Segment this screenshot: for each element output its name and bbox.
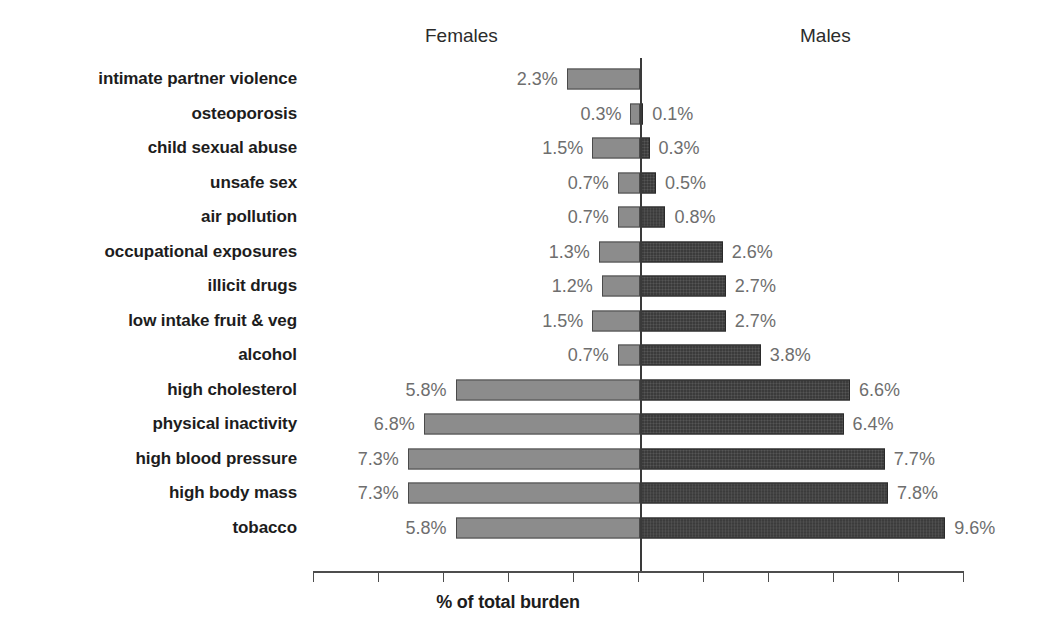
- axis-tick: [573, 571, 574, 582]
- bar-male: [640, 276, 726, 297]
- value-label-female: 6.8%: [374, 414, 415, 435]
- axis-tick: [313, 571, 314, 582]
- bar-rows: intimate partner violence2.3%osteoporosi…: [0, 62, 1038, 545]
- axis-tick: [703, 571, 704, 582]
- category-label: alcohol: [238, 345, 297, 365]
- axis-tick: [443, 571, 444, 582]
- chart-row: high cholesterol5.8%6.6%: [0, 373, 1038, 408]
- chart-row: alcohol0.7%3.8%: [0, 338, 1038, 373]
- axis-tick: [638, 571, 639, 582]
- category-label: unsafe sex: [210, 173, 297, 193]
- axis-tick: [378, 571, 379, 582]
- chart-row: high blood pressure7.3%7.7%: [0, 442, 1038, 477]
- category-label: high cholesterol: [167, 380, 297, 400]
- chart-row: low intake fruit & veg1.5%2.7%: [0, 304, 1038, 339]
- value-label-female: 5.8%: [406, 379, 447, 400]
- value-label-male: 7.8%: [897, 483, 938, 504]
- chart-row: unsafe sex0.7%0.5%: [0, 166, 1038, 201]
- bar-male: [640, 172, 656, 193]
- bar-male: [640, 517, 945, 538]
- value-label-male: 2.7%: [735, 276, 776, 297]
- value-label-female: 7.3%: [358, 483, 399, 504]
- chart-row: air pollution0.7%0.8%: [0, 200, 1038, 235]
- x-axis-title-text: % of total burden: [436, 592, 580, 613]
- value-label-male: 7.7%: [894, 448, 935, 469]
- bar-male: [640, 414, 844, 435]
- axis-tick: [898, 571, 899, 582]
- category-label: physical inactivity: [152, 414, 297, 434]
- bar-female: [592, 310, 640, 331]
- zero-axis-line: [640, 58, 642, 572]
- value-label-female: 1.2%: [552, 276, 593, 297]
- chart-row: osteoporosis0.3%0.1%: [0, 97, 1038, 132]
- bar-male: [640, 310, 726, 331]
- value-label-female: 1.3%: [549, 241, 590, 262]
- category-label: low intake fruit & veg: [128, 311, 297, 331]
- axis-tick: [963, 571, 964, 582]
- bar-male: [640, 483, 888, 504]
- category-label: high body mass: [169, 483, 297, 503]
- value-label-male: 2.7%: [735, 310, 776, 331]
- value-label-female: 2.3%: [517, 69, 558, 90]
- category-label: intimate partner violence: [98, 69, 297, 89]
- bar-female: [592, 138, 640, 159]
- value-label-female: 7.3%: [358, 448, 399, 469]
- chart-row: illicit drugs1.2%2.7%: [0, 269, 1038, 304]
- bar-female: [567, 69, 640, 90]
- bar-female: [618, 345, 640, 366]
- chart-row: intimate partner violence2.3%: [0, 62, 1038, 97]
- value-label-male: 6.4%: [853, 414, 894, 435]
- bar-female: [630, 103, 640, 124]
- value-label-male: 6.6%: [859, 379, 900, 400]
- bar-female: [408, 483, 640, 504]
- value-label-female: 0.7%: [568, 207, 609, 228]
- bar-female: [599, 241, 640, 262]
- bar-female: [424, 414, 640, 435]
- value-label-male: 0.1%: [652, 103, 693, 124]
- chart-canvas: Females Males intimate partner violence2…: [0, 0, 1038, 632]
- axis-tick: [768, 571, 769, 582]
- bar-female: [618, 172, 640, 193]
- bar-female: [602, 276, 640, 297]
- bar-male: [640, 241, 723, 262]
- value-label-female: 0.7%: [568, 345, 609, 366]
- category-label: child sexual abuse: [148, 138, 297, 158]
- category-label: osteoporosis: [191, 104, 297, 124]
- category-label: air pollution: [201, 207, 297, 227]
- value-label-female: 0.7%: [568, 172, 609, 193]
- chart-row: child sexual abuse1.5%0.3%: [0, 131, 1038, 166]
- value-label-male: 9.6%: [954, 517, 995, 538]
- category-label: high blood pressure: [135, 449, 297, 469]
- bar-male: [640, 207, 665, 228]
- value-label-male: 0.5%: [665, 172, 706, 193]
- chart-row: occupational exposures1.3%2.6%: [0, 235, 1038, 270]
- axis-tick: [508, 571, 509, 582]
- bar-female: [408, 448, 640, 469]
- value-label-male: 3.8%: [770, 345, 811, 366]
- chart-row: physical inactivity6.8%6.4%: [0, 407, 1038, 442]
- chart-row: tobacco5.8%9.6%: [0, 511, 1038, 546]
- value-label-female: 5.8%: [406, 517, 447, 538]
- category-label: illicit drugs: [208, 276, 297, 296]
- value-label-male: 0.8%: [674, 207, 715, 228]
- category-label: occupational exposures: [105, 242, 297, 262]
- bar-female: [456, 379, 640, 400]
- bar-female: [456, 517, 640, 538]
- column-header-females: Females: [425, 25, 498, 47]
- bar-male: [640, 448, 885, 469]
- value-label-female: 1.5%: [542, 138, 583, 159]
- column-header-males: Males: [800, 25, 851, 47]
- bar-male: [640, 345, 761, 366]
- value-label-male: 2.6%: [732, 241, 773, 262]
- category-label: tobacco: [233, 518, 297, 538]
- x-axis-title: % of total burden: [0, 592, 1038, 613]
- bar-male: [640, 379, 850, 400]
- axis-tick: [833, 571, 834, 582]
- bar-female: [618, 207, 640, 228]
- value-label-male: 0.3%: [659, 138, 700, 159]
- chart-row: high body mass7.3%7.8%: [0, 476, 1038, 511]
- value-label-female: 0.3%: [580, 103, 621, 124]
- value-label-female: 1.5%: [542, 310, 583, 331]
